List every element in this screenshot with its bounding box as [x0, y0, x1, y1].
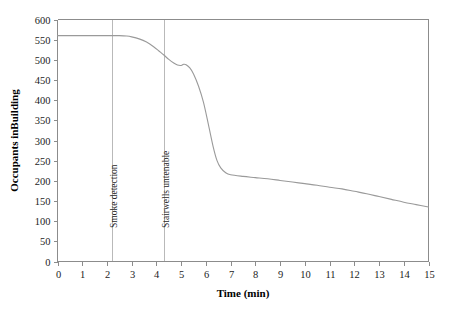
y-tick-label-11: 550	[35, 35, 51, 46]
x-tick-label-3: 3	[130, 269, 135, 280]
event-label-1: Stairwells untenable	[161, 151, 171, 228]
y-axis-title: Occupants inBuilding	[8, 89, 20, 192]
x-tick-label-11: 11	[325, 269, 335, 280]
event-label-0: Smoke detection	[109, 164, 119, 228]
y-tick-label-9: 450	[35, 75, 51, 86]
x-tick-label-12: 12	[349, 269, 360, 280]
chart-container: Smoke detectionStairwells untenable05010…	[0, 0, 451, 312]
x-tick-label-14: 14	[399, 269, 410, 280]
y-tick-label-4: 200	[35, 176, 51, 187]
x-tick-label-1: 1	[80, 269, 85, 280]
y-tick-label-7: 350	[35, 115, 51, 126]
y-tick-label-1: 50	[40, 236, 51, 247]
y-tick-label-0: 0	[45, 257, 50, 268]
x-tick-label-15: 15	[424, 269, 435, 280]
x-tick-label-7: 7	[229, 269, 234, 280]
x-tick-label-8: 8	[253, 269, 258, 280]
y-tick-label-5: 250	[35, 156, 51, 167]
x-tick-label-9: 9	[278, 269, 283, 280]
x-axis-title: Time (min)	[217, 287, 270, 300]
y-tick-label-8: 400	[35, 95, 51, 106]
y-tick-label-2: 100	[35, 216, 51, 227]
x-tick-label-4: 4	[154, 269, 160, 280]
x-tick-label-0: 0	[56, 269, 61, 280]
y-tick-label-3: 150	[35, 196, 51, 207]
x-tick-label-13: 13	[374, 269, 385, 280]
y-tick-label-10: 500	[35, 55, 51, 66]
x-tick-label-5: 5	[179, 269, 184, 280]
y-tick-label-12: 600	[35, 15, 51, 26]
y-tick-label-6: 300	[35, 136, 51, 147]
occupants-vs-time-line-chart: Smoke detectionStairwells untenable05010…	[0, 0, 451, 312]
x-tick-label-2: 2	[105, 269, 110, 280]
x-tick-label-6: 6	[204, 269, 209, 280]
x-tick-label-10: 10	[300, 269, 311, 280]
